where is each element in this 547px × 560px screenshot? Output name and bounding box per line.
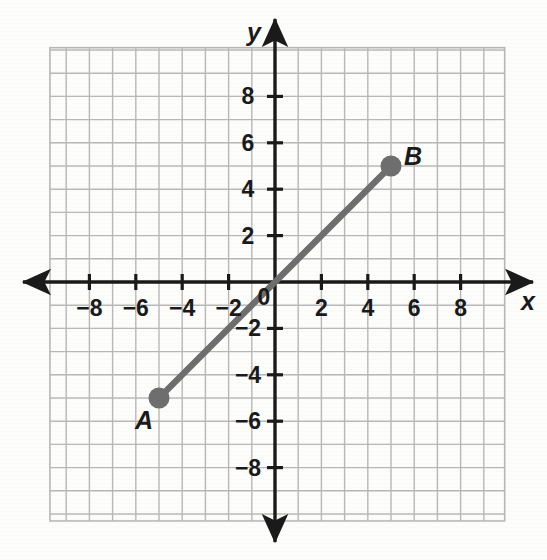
y-tick-label--6: −6 bbox=[235, 410, 261, 433]
y-tick-label-2: 2 bbox=[242, 224, 255, 247]
y-tick-label--2: −2 bbox=[235, 317, 261, 340]
x-tick-label-6: 6 bbox=[408, 297, 421, 320]
coordinate-plane-figure: −8−6−4−224688642−2−4−6−80yxAB bbox=[0, 0, 547, 560]
grid-border bbox=[50, 48, 505, 521]
origin-label: 0 bbox=[258, 286, 271, 309]
grid-lines bbox=[50, 48, 505, 521]
point-label-A: A bbox=[135, 408, 153, 433]
y-tick-label--4: −4 bbox=[235, 363, 261, 386]
y-tick-label-6: 6 bbox=[242, 131, 255, 154]
y-tick-label--8: −8 bbox=[235, 456, 261, 479]
x-axis-label: x bbox=[521, 289, 535, 314]
x-tick-label-4: 4 bbox=[361, 297, 374, 320]
point-B bbox=[381, 156, 402, 177]
x-tick-label--4: −4 bbox=[169, 297, 195, 320]
y-axis-label: y bbox=[247, 20, 261, 45]
y-tick-label-4: 4 bbox=[242, 178, 255, 201]
plot-canvas bbox=[0, 0, 547, 560]
x-tick-label-2: 2 bbox=[315, 297, 328, 320]
x-tick-label--6: −6 bbox=[123, 297, 149, 320]
x-tick-label-8: 8 bbox=[454, 297, 467, 320]
point-label-B: B bbox=[404, 143, 422, 168]
y-tick-label-8: 8 bbox=[242, 85, 255, 108]
x-tick-label--8: −8 bbox=[76, 297, 102, 320]
